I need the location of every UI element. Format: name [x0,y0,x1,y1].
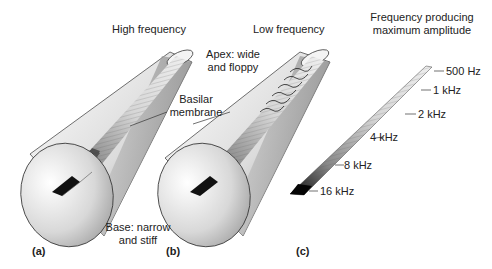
panel-c-title-line2: maximum amplitude [362,24,482,37]
freq-label-1khz: 1 kHz [433,84,461,97]
panel-a-title: High frequency [112,23,186,36]
cochlea-diagram [0,0,492,269]
panel-b-title: Low frequency [253,23,325,36]
base-label: Base: narrow and stiff [100,221,176,247]
base-label-line1: Base: narrow [100,221,176,234]
panel-c-title-line1: Frequency producing [362,11,482,24]
panel-c-label: (c) [296,245,309,258]
freq-label-2khz: 2 kHz [418,108,446,121]
freq-label-4khz: 4 kHz [370,131,398,144]
base-label-line2: and stiff [100,234,176,247]
freq-label-500hz: 500 Hz [446,65,481,78]
panel-b-label: (b) [166,245,180,258]
panel-c-title: Frequency producing maximum amplitude [362,11,482,37]
basilar-label-line2: membrane [166,106,226,119]
freq-label-8khz: 8 kHz [344,159,372,172]
panel-a-label: (a) [32,245,45,258]
basilar-membrane-label: Basilar membrane [166,93,226,119]
apex-label: Apex: wide and floppy [202,48,264,74]
apex-label-line2: and floppy [202,61,264,74]
basilar-label-line1: Basilar [166,93,226,106]
freq-label-16khz: 16 kHz [320,185,354,198]
apex-label-line1: Apex: wide [202,48,264,61]
